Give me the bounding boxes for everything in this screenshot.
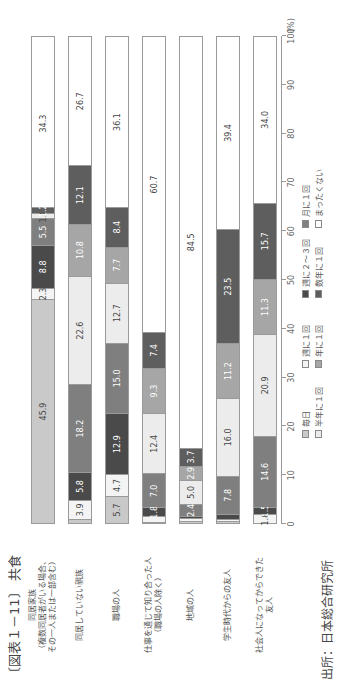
bar-segment: 3.9: [69, 500, 91, 519]
segment-value: 4.7: [113, 479, 122, 492]
segment-value: 15.0: [113, 370, 122, 388]
segment-value: 36.1: [113, 113, 122, 131]
segment-value: 7.4: [150, 344, 159, 357]
legend-item: 毎日: [300, 368, 311, 438]
bar-segment: 34.3: [32, 40, 54, 207]
segment-value: 7.8: [224, 489, 233, 502]
segment-value: 12.7: [113, 304, 122, 322]
legend-item: 年に１回: [313, 298, 324, 368]
bar-segment: [180, 518, 202, 521]
legend-label: 半年に１回: [313, 387, 324, 427]
bar-segment: [217, 521, 239, 523]
tick-mark: [282, 84, 286, 85]
legend-label: まったくない: [313, 169, 324, 217]
bar-segment: 1.2: [32, 207, 54, 213]
bar-segment: [180, 521, 202, 523]
segment-value: 12.9: [113, 435, 122, 453]
bar-segment: 8.8: [32, 245, 54, 288]
segment-value: 11.3: [261, 298, 270, 316]
tick-mark: [282, 230, 286, 231]
bar-segment: 11.3: [254, 279, 276, 334]
bar-segment: 4.7: [106, 474, 128, 496]
bar-segment: 2.9: [180, 466, 202, 480]
legend-swatch-icon: [315, 220, 322, 228]
legend-swatch-icon: [302, 290, 309, 298]
tick-label: 90: [287, 80, 296, 90]
stacked-bar: 1.87.012.49.37.460.7: [142, 36, 166, 524]
legend-item: 半年に１回: [313, 368, 324, 438]
segment-value: 5.8: [76, 480, 85, 493]
stacked-bar: 1.81.514.620.911.315.734.0: [253, 36, 277, 524]
bar-segment: [217, 519, 239, 521]
stacked-bar: 7.816.011.223.539.4: [216, 36, 240, 524]
bar-segment: 15.0: [106, 343, 128, 414]
legend-label: 毎日: [300, 411, 311, 427]
legend-item: 数年に１回: [313, 228, 324, 298]
segment-value: 1.8: [150, 506, 159, 519]
legend-swatch-icon: [315, 360, 322, 368]
bar-segment: 8.4: [106, 207, 128, 247]
bar-segment: 7.4: [143, 332, 165, 368]
legend-swatch-icon: [315, 290, 322, 298]
legend-item: まったくない: [313, 158, 324, 228]
legend-item: 月に１回: [300, 158, 311, 228]
bar-segment: 16.0: [217, 398, 239, 476]
stacked-bar: 3.95.818.222.610.812.126.7: [68, 36, 92, 524]
segment-value: 18.2: [76, 420, 85, 438]
segment-value: 5.7: [113, 504, 122, 517]
segment-value: 39.4: [224, 124, 233, 142]
segment-value: 34.0: [261, 111, 270, 129]
segment-value: 2.4: [187, 504, 196, 517]
bar-segment: 36.1: [106, 37, 128, 207]
rotated-figure: 〔図表１－11〕 共食 同居家族 （複数同居者がいる場合、 その一人または一部含…: [0, 0, 348, 688]
legend: 毎日週に１回週に２～３回月に１回半年に１回年に１回数年に１回まったくない: [300, 158, 324, 438]
segment-value: 9.3: [150, 385, 159, 398]
tick-mark: [282, 425, 286, 426]
category-label: 地域の人: [178, 530, 204, 680]
bar-segment: 9.3: [143, 368, 165, 413]
legend-item: 週に２～３回: [300, 228, 311, 298]
segment-value: 5.0: [187, 486, 196, 499]
segment-value: 60.7: [150, 176, 159, 194]
segment-value: 84.5: [187, 233, 196, 251]
legend-swatch-icon: [302, 220, 309, 228]
segment-value: 7.0: [150, 485, 159, 498]
segment-value: 7.7: [113, 259, 122, 272]
bar-segment: 1.5: [254, 507, 276, 514]
bar-segment: 12.9: [106, 413, 128, 474]
legend-label: 数年に１回: [313, 247, 324, 287]
bar-segment: 12.1: [69, 165, 91, 223]
segment-value: 15.7: [261, 232, 270, 250]
segment-value: 3.9: [76, 503, 85, 516]
stacked-bar: 45.92.38.85.51.01.234.3: [31, 36, 55, 524]
tick-label: 100: [287, 28, 296, 43]
tick-mark: [282, 474, 286, 475]
tick-label: 80: [287, 129, 296, 139]
category-label: 職場の人: [104, 530, 130, 680]
bar-segment: 3.7: [180, 448, 202, 466]
bar-segment: 7.8: [217, 476, 239, 514]
bar-segment: 2.4: [180, 504, 202, 516]
stacked-bar: 2.45.02.93.784.5: [179, 36, 203, 524]
category-label: 社会人になってからできた 友人: [252, 530, 278, 680]
bar-segment: 14.6: [254, 436, 276, 507]
segment-value: 5.5: [39, 226, 48, 239]
segment-value: 12.4: [150, 435, 159, 453]
bar-segment: 34.0: [254, 37, 276, 203]
bar-segment: 10.8: [69, 224, 91, 276]
bar-segment: 5.0: [180, 480, 202, 504]
legend-item: 週に１回: [300, 298, 311, 368]
bar-segment: 1.8: [143, 507, 165, 516]
segment-value: 34.3: [39, 115, 48, 133]
bar-segment: 12.7: [106, 283, 128, 343]
tick-mark: [282, 133, 286, 134]
bar-segment: 7.0: [143, 473, 165, 507]
source-note: 出所：日本総合研究所: [318, 560, 335, 680]
tick-mark: [282, 328, 286, 329]
tick-label: 40: [287, 324, 296, 334]
segment-value: 10.8: [76, 241, 85, 259]
tick-label: 50: [287, 275, 296, 285]
bar-segment: 39.4: [217, 37, 239, 229]
bar-segment: 18.2: [69, 384, 91, 472]
bar-segment: 60.7: [143, 37, 165, 332]
